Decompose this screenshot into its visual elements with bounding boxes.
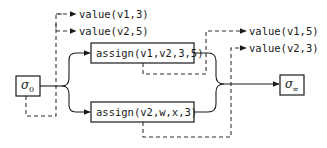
state-subscript: ∞ xyxy=(292,85,299,94)
action-label: assign(v1,v2,3,5) xyxy=(96,47,203,59)
state-node-initial: σ 0 xyxy=(16,76,40,96)
observation-value-v1-5: value(v1,5) xyxy=(249,25,319,37)
observation-value-v2-5: value(v2,5) xyxy=(79,25,149,37)
observation-value-v1-3: value(v1,3) xyxy=(79,8,149,20)
state-node-final: σ ∞ xyxy=(280,75,304,95)
edge-to-assign1 xyxy=(62,53,90,86)
action-label: assign(v2,w,x,3) xyxy=(96,106,197,118)
action-node-assign1: assign(v1,v2,3,5) xyxy=(91,43,203,63)
state-subscript: 0 xyxy=(29,85,34,94)
action-node-assign2: assign(v2,w,x,3) xyxy=(91,102,197,122)
dashed-arrow-value-v2-5 xyxy=(56,24,76,31)
observation-value-v2-3: value(v2,3) xyxy=(249,42,319,54)
edge-to-assign2 xyxy=(62,86,90,112)
state-diagram: value(v1,3) value(v2,5) value(v1,5) valu… xyxy=(0,0,327,148)
edge-from-assign2 xyxy=(194,84,224,112)
dashed-edge-sigma0-spine xyxy=(26,14,62,116)
